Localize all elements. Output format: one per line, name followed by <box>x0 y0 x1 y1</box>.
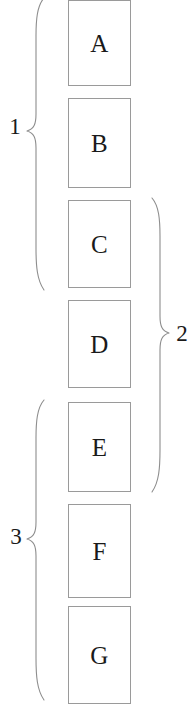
box-b-label: B <box>91 131 108 156</box>
box-g[interactable]: G <box>68 606 131 704</box>
box-f[interactable]: F <box>68 504 131 598</box>
box-f-label: F <box>92 539 106 564</box>
box-d[interactable]: D <box>68 300 131 388</box>
brace-2-curly <box>150 196 172 496</box>
brace-3-curly <box>24 396 46 706</box>
box-a[interactable]: A <box>68 0 131 86</box>
box-b[interactable]: B <box>68 98 131 188</box>
box-g-label: G <box>90 643 108 668</box>
brace-3-label: 3 <box>6 525 26 548</box>
brace-1-curly <box>24 0 46 296</box>
box-d-label: D <box>90 332 108 357</box>
box-c-label: C <box>91 232 108 257</box>
brace-1-label: 1 <box>5 115 25 138</box>
box-e-label: E <box>92 435 107 460</box>
bracket-grouping-diagram: 1 2 3 A B C D E F G <box>0 0 194 718</box>
brace-2-label: 2 <box>172 322 192 345</box>
box-e[interactable]: E <box>68 402 131 492</box>
box-a-label: A <box>90 31 108 56</box>
box-c[interactable]: C <box>68 200 131 288</box>
